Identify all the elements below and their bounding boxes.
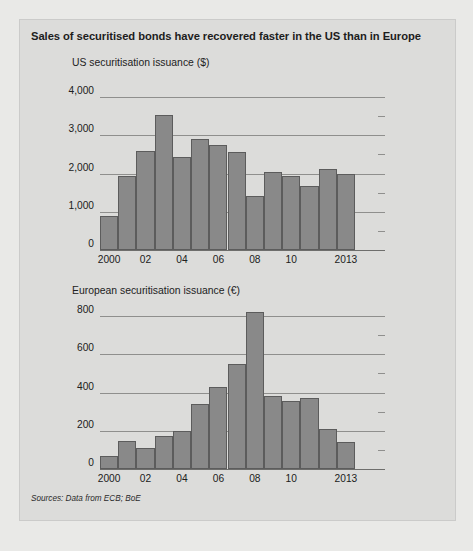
chart-0-plot: 01,0002,0003,0004,000200002040608102013 [100,97,385,250]
x-axis-tick-label: 2013 [324,254,368,265]
bar [264,396,282,469]
bar [191,139,209,250]
gridline [100,97,385,98]
y-axis-minor-tick [378,116,385,117]
y-axis-minor-tick [378,450,385,451]
y-axis-tick-label: 600 [54,342,94,353]
page-title: Sales of securitised bonds have recovere… [31,30,431,42]
bar [191,404,209,469]
y-axis-tick-label: 4,000 [54,85,94,96]
bar [155,436,173,469]
y-axis-minor-tick [378,335,385,336]
bar [300,398,318,469]
bar [100,456,118,469]
bar [173,431,191,469]
bar [282,401,300,469]
y-axis-tick-label: 1,000 [54,200,94,211]
bar [209,387,227,469]
axis-baseline [100,469,385,470]
y-axis-minor-tick [378,193,385,194]
y-axis-tick-label: 2,000 [54,162,94,173]
source-note: Sources: Data from ECB; BoE [31,494,141,503]
x-axis-tick-label: 10 [269,473,313,484]
gridline [100,316,385,317]
chart-0-subtitle: US securitisation issuance ($) [72,57,209,68]
x-axis-tick-label: 10 [269,254,313,265]
bar [246,312,264,469]
chart-1-plot: 0200400600800200002040608102013 [100,316,385,469]
bar [282,176,300,250]
y-axis-tick-label: 400 [54,381,94,392]
bar [100,216,118,250]
bar [118,176,136,250]
axis-baseline [100,250,385,251]
chart-1-subtitle: European securitisation issuance (€) [72,285,240,296]
y-axis-tick-label: 800 [54,304,94,315]
y-axis-minor-tick [378,231,385,232]
x-axis-tick-label: 2013 [324,473,368,484]
bar [337,174,355,251]
bar [319,169,337,250]
bar [319,429,337,469]
bar [337,442,355,469]
gridline [100,135,385,136]
y-axis-tick-label: 0 [54,238,94,249]
y-axis-tick-label: 200 [54,419,94,430]
y-axis-minor-tick [378,154,385,155]
bar [155,115,173,250]
bar [264,172,282,250]
bar [209,145,227,250]
y-axis-tick-label: 0 [54,457,94,468]
bar [118,441,136,469]
y-axis-minor-tick [378,373,385,374]
bar [173,157,191,250]
bar [136,448,154,469]
bar [300,186,318,250]
bar [136,151,154,250]
y-axis-tick-label: 3,000 [54,123,94,134]
bar [228,364,246,469]
figure-root: Sales of securitised bonds have recovere… [0,0,473,551]
bar [246,196,264,250]
bar [228,152,246,250]
y-axis-minor-tick [378,412,385,413]
gridline [100,354,385,355]
